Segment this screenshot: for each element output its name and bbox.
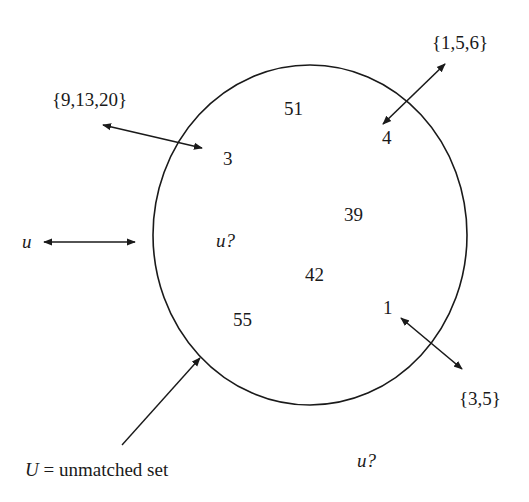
label-u-query-outside: u?	[357, 451, 376, 470]
element-u-query: u?	[216, 231, 235, 250]
label-u-left: u	[22, 232, 32, 251]
element-1: 1	[383, 298, 393, 317]
label-set-1-5-6: {1,5,6}	[432, 33, 488, 52]
element-4: 4	[382, 128, 392, 147]
arrow-1-to-set-3-5	[401, 318, 462, 369]
element-3: 3	[223, 149, 233, 168]
caption-variable: U	[25, 459, 39, 480]
label-set-9-13-20: {9,13,20}	[52, 90, 127, 109]
element-51: 51	[284, 99, 303, 118]
arrow-caption-to-boundary	[122, 358, 200, 445]
caption-unmatched-set: U = unmatched set	[25, 460, 168, 479]
arrow-set-1-5-6-to-4	[383, 64, 445, 124]
label-set-3-5: {3,5}	[459, 389, 501, 408]
set-diagram-canvas	[0, 0, 529, 502]
caption-text: unmatched set	[59, 459, 168, 480]
caption-equals: =	[43, 459, 54, 480]
unmatched-set-boundary	[153, 65, 467, 405]
element-55: 55	[233, 310, 252, 329]
element-39: 39	[344, 205, 363, 224]
element-42: 42	[305, 265, 324, 284]
